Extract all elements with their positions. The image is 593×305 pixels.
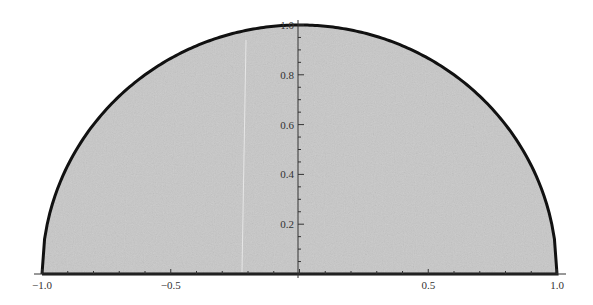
y-tick-label: 0.2 — [280, 218, 294, 230]
x-tick-label: 1.0 — [550, 279, 564, 291]
y-tick-label: 0.6 — [280, 119, 294, 131]
x-tick-label: −1.0 — [32, 279, 52, 291]
x-tick-label: −0.5 — [161, 279, 181, 291]
y-tick-label: 0.8 — [280, 69, 294, 81]
semicircle-area-chart: −1.0−0.50.51.0 0.20.40.60.81.0 — [0, 0, 593, 305]
y-tick-label: 1.0 — [280, 19, 294, 31]
x-tick-label: 0.5 — [421, 279, 435, 291]
y-tick-label: 0.4 — [280, 168, 294, 180]
